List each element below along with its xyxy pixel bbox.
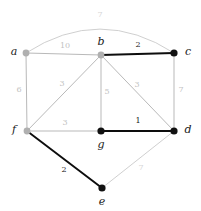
edge-weight-b-c: 2 [135,40,140,49]
edge-weight-a-c: 7 [97,10,102,19]
edge-weight-e-d: 7 [138,163,143,172]
graph-edge-a-b [26,53,101,55]
edge-weight-b-g: 5 [104,87,109,96]
graph-canvas: 7102635373127 abcfgde [0,0,201,211]
graph-figure: 7102635373127 abcfgde [0,0,201,211]
nodes-layer [23,49,178,191]
node-label-a: a [11,45,18,58]
edge-weight-f-b: 3 [59,79,64,88]
graph-edge-a-f [26,53,27,131]
edge-weight-g-d: 1 [135,116,140,125]
graph-node-g[interactable] [97,127,104,134]
graph-node-b[interactable] [98,52,105,59]
edge-weight-a-f: 6 [16,85,21,94]
graph-node-d[interactable] [170,127,177,134]
node-label-c: c [185,45,191,58]
node-label-b: b [97,35,104,48]
node-label-d: d [184,123,191,136]
edge-weight-f-g: 3 [62,118,67,127]
edge-weight-b-d: 3 [134,80,139,89]
graph-node-c[interactable] [170,49,177,56]
graph-node-f[interactable] [24,128,31,135]
edge-weight-f-e: 2 [61,165,66,174]
graph-node-e[interactable] [98,184,105,191]
graph-edge-b-c [101,53,174,55]
edge-weight-c-d: 7 [178,85,183,94]
graph-edge-e-d [102,131,174,188]
node-label-g: g [97,138,104,151]
graph-node-a[interactable] [23,50,30,57]
node-label-f: f [11,123,18,136]
edge-weight-a-b: 10 [60,41,70,50]
node-label-e: e [99,195,106,208]
graph-edge-f-e [27,131,102,188]
